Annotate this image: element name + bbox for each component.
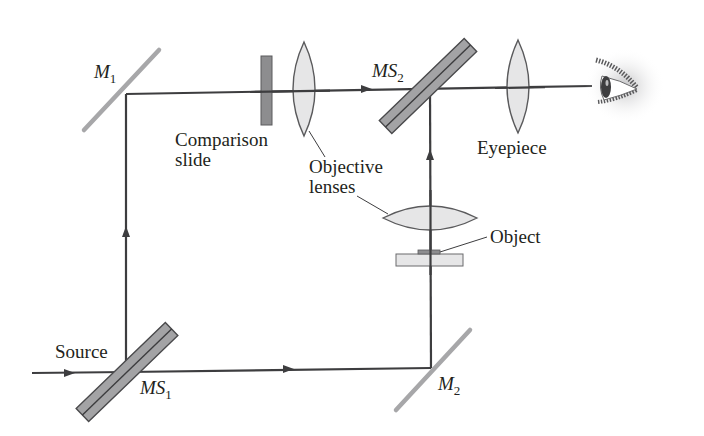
arrow-right-icon bbox=[283, 365, 294, 373]
label-comparison-line2: slide bbox=[175, 150, 268, 170]
microscope-diagram: M1 MS2 Comparison slide Objective lenses… bbox=[0, 0, 704, 436]
label-eyepiece: Eyepiece bbox=[477, 138, 547, 158]
label-objective-line1: Objective bbox=[309, 157, 383, 177]
label-ms1-main: MS bbox=[140, 377, 165, 398]
arrow-up-icon bbox=[122, 226, 130, 237]
eye-icon bbox=[585, 48, 665, 124]
beam-ms1-to-m2 bbox=[127, 368, 431, 372]
label-m2-main: M bbox=[438, 373, 454, 394]
label-comparison-slide: Comparison slide bbox=[175, 130, 268, 170]
label-m2-sub: 2 bbox=[454, 383, 461, 398]
arrow-up-icon bbox=[426, 149, 434, 160]
label-objective-lenses: Objective lenses bbox=[309, 157, 383, 197]
label-ms1: MS1 bbox=[140, 378, 172, 405]
label-ms1-sub: 1 bbox=[165, 387, 172, 402]
label-objective-line2: lenses bbox=[309, 177, 383, 197]
arrow-right-icon bbox=[361, 85, 372, 93]
label-object: Object bbox=[490, 227, 541, 247]
label-m2: M2 bbox=[438, 374, 460, 401]
label-ms2-main: MS bbox=[372, 60, 397, 81]
label-comparison-line1: Comparison bbox=[175, 130, 268, 150]
label-m1-sub: 1 bbox=[110, 71, 117, 86]
label-m1: M1 bbox=[94, 62, 116, 89]
label-ms2: MS2 bbox=[372, 61, 404, 88]
objective-lens-upper bbox=[293, 42, 315, 136]
label-ms2-sub: 2 bbox=[397, 70, 404, 85]
comparison-slide bbox=[261, 56, 272, 125]
arrow-right-icon bbox=[64, 369, 75, 377]
object-specimen bbox=[418, 250, 440, 254]
label-source: Source bbox=[55, 342, 108, 362]
label-m1-main: M bbox=[94, 61, 110, 82]
